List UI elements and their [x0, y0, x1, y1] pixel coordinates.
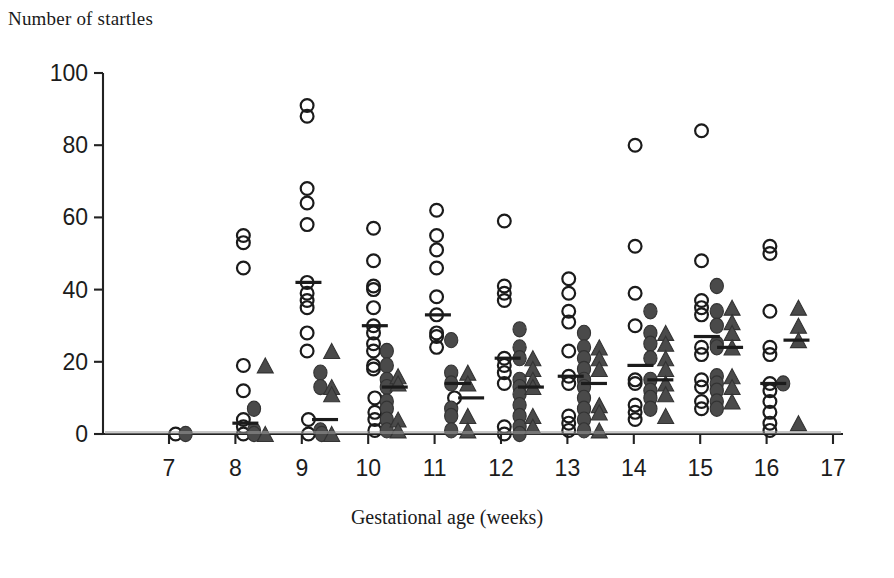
x-tick-label: 12 — [488, 455, 514, 481]
data-point-filled-circle — [644, 351, 657, 366]
y-tick-label: 100 — [50, 60, 88, 86]
data-point-filled-triangle — [790, 300, 806, 315]
data-point-open-circle — [430, 290, 443, 303]
data-point-filled-circle — [710, 401, 723, 416]
x-tick-label: 14 — [621, 455, 647, 481]
data-point-open-circle — [430, 229, 443, 242]
x-tick-label: 17 — [820, 455, 846, 481]
data-point-open-circle — [301, 182, 314, 195]
y-tick-label: 40 — [62, 277, 88, 303]
x-tick-label-group: 7891011121314151617 — [163, 455, 846, 481]
data-point-filled-triangle — [460, 423, 476, 438]
data-point-open-circle — [301, 218, 314, 231]
y-tick-label: 0 — [75, 421, 88, 447]
data-point-open-circle — [301, 327, 314, 340]
scatter-plot-svg: 020406080100 7891011121314151617 — [0, 0, 894, 578]
x-tick-label: 11 — [423, 455, 447, 481]
data-point-filled-triangle — [790, 318, 806, 333]
data-point-filled-circle — [247, 401, 260, 416]
figure-container: Number of startles 020406080100 78910111… — [0, 0, 894, 578]
data-point-open-circle — [562, 272, 575, 285]
data-point-open-circle — [629, 319, 642, 332]
data-point-open-circle — [430, 262, 443, 275]
x-tick-label: 16 — [754, 455, 780, 481]
data-point-filled-circle — [445, 333, 458, 348]
data-point-filled-circle — [513, 322, 526, 337]
data-point-open-circle — [562, 287, 575, 300]
x-tick-label: 10 — [355, 455, 381, 481]
data-point-open-circle — [629, 240, 642, 253]
data-point-open-circle — [498, 215, 511, 228]
y-tick-label: 20 — [62, 349, 88, 375]
data-point-open-circle — [237, 384, 250, 397]
data-point-filled-triangle — [591, 423, 607, 438]
baseline-smudge — [105, 431, 841, 434]
data-point-open-circle — [368, 392, 381, 405]
data-point-open-circle — [695, 254, 708, 267]
data-point-open-circle — [301, 197, 314, 210]
data-point-filled-circle — [644, 336, 657, 351]
y-tick-label: 80 — [62, 132, 88, 158]
data-point-filled-circle — [644, 401, 657, 416]
data-point-open-circle — [237, 359, 250, 372]
data-point-filled-circle — [380, 343, 393, 358]
data-point-filled-circle — [314, 365, 327, 380]
data-point-filled-circle — [577, 423, 590, 438]
data-point-open-circle — [430, 243, 443, 256]
data-point-open-circle — [367, 254, 380, 267]
data-point-open-circle — [695, 124, 708, 137]
data-points-group — [169, 99, 806, 442]
y-tick-label-group: 020406080100 — [50, 60, 88, 447]
data-point-open-circle — [629, 287, 642, 300]
data-point-open-circle — [237, 262, 250, 275]
data-point-filled-circle — [445, 423, 458, 438]
data-point-filled-circle — [380, 358, 393, 373]
data-point-filled-triangle — [460, 408, 476, 423]
x-tick-label: 15 — [687, 455, 713, 481]
data-point-open-circle — [367, 222, 380, 235]
x-tick-label: 13 — [555, 455, 581, 481]
data-point-filled-circle — [577, 325, 590, 340]
data-point-filled-triangle — [324, 343, 340, 358]
data-point-filled-triangle — [790, 416, 806, 431]
data-point-filled-circle — [644, 304, 657, 319]
data-point-open-circle — [562, 345, 575, 358]
data-point-filled-circle — [710, 278, 723, 293]
data-point-filled-triangle — [658, 408, 674, 423]
data-point-filled-triangle — [724, 394, 740, 409]
data-point-open-circle — [629, 139, 642, 152]
data-point-filled-circle — [445, 408, 458, 423]
data-point-open-circle — [301, 345, 314, 358]
data-point-filled-triangle — [724, 300, 740, 315]
x-tick-label: 7 — [163, 455, 176, 481]
data-point-open-circle — [764, 305, 777, 318]
data-point-open-circle — [430, 204, 443, 217]
data-point-open-circle — [367, 301, 380, 314]
x-tick-label: 8 — [229, 455, 242, 481]
y-tick-label: 60 — [62, 204, 88, 230]
x-tick-label: 9 — [295, 455, 308, 481]
x-axis-title: Gestational age (weeks) — [0, 506, 894, 529]
data-point-filled-circle — [710, 304, 723, 319]
data-point-filled-circle — [710, 318, 723, 333]
data-point-filled-triangle — [257, 358, 273, 373]
